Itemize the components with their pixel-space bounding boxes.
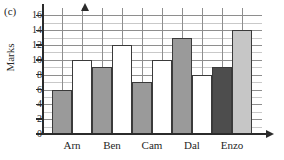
y-tick-label: 0: [8, 129, 42, 139]
y-tick-label: 12: [8, 40, 42, 50]
bar: [92, 67, 112, 134]
y-axis-arrow-icon: [81, 3, 89, 11]
bar: [232, 30, 252, 134]
y-axis-ticks: 0246810121416: [0, 0, 42, 160]
y-axis-line: [42, 4, 44, 135]
y-tick-label: 8: [8, 70, 42, 80]
y-tick-label: 2: [8, 114, 42, 124]
y-tick-label: 6: [8, 85, 42, 95]
bar: [212, 67, 232, 134]
bar: [112, 45, 132, 134]
y-tick-label: 4: [8, 99, 42, 109]
y-tick-label: 10: [8, 55, 42, 65]
bars: [42, 8, 262, 134]
y-tick-label: 14: [8, 25, 42, 35]
x-axis-line: [42, 133, 268, 135]
bar: [192, 75, 212, 134]
y-tick-label: 16: [8, 10, 42, 20]
bar: [152, 60, 172, 134]
bar: [52, 90, 72, 134]
bar: [132, 82, 152, 134]
plot-area: [42, 8, 262, 134]
bar: [72, 60, 92, 134]
bar-chart-figure: (c) Marks 0246810121416 ArnBenCamDalEnzo: [0, 0, 284, 160]
x-axis-category-labels: ArnBenCamDalEnzo: [42, 137, 268, 157]
bar: [172, 38, 192, 134]
x-axis-category-label: Enzo: [202, 140, 262, 151]
